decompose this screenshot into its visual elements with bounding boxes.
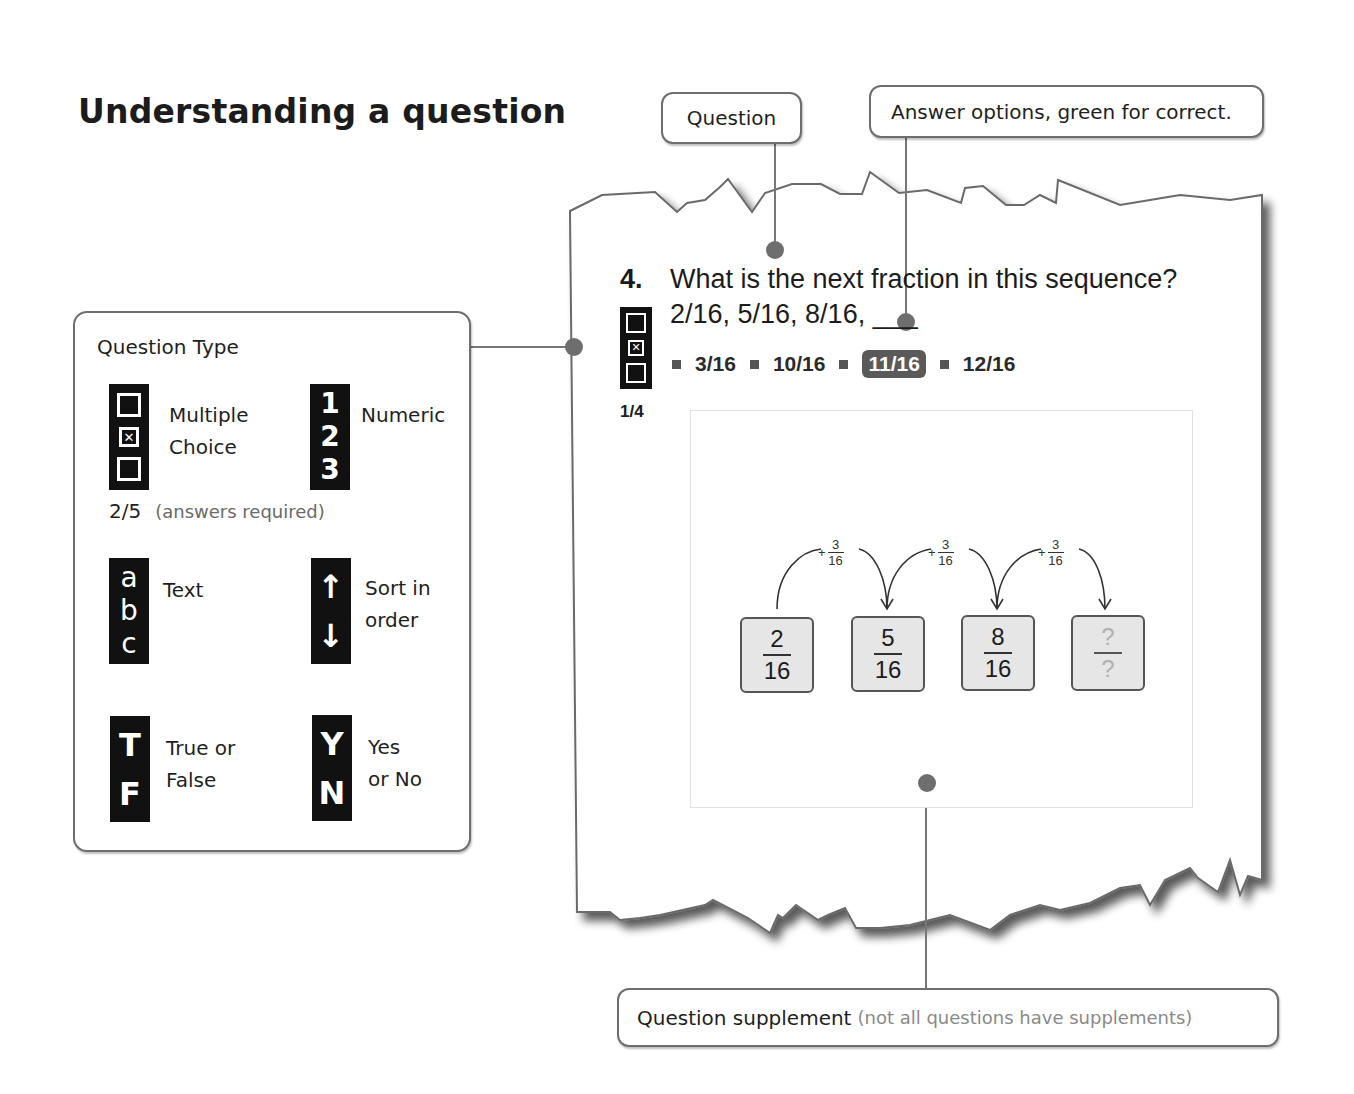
question-type-heading: Question Type (97, 335, 239, 359)
answer-options: 3/16 10/16 11/16 12/16 (672, 350, 1029, 378)
qtype-label-numeric: Numeric (361, 399, 445, 431)
step-label: + 316 (1038, 538, 1064, 567)
checkbox-empty-icon (626, 363, 646, 383)
mc-count-note: (answers required) (155, 501, 325, 522)
fraction-card: 216 (740, 617, 814, 693)
supplement-callout: Question supplement (not all questions h… (617, 988, 1279, 1047)
fraction-card: 816 (961, 615, 1035, 691)
answer-option[interactable]: 10/16 (750, 352, 826, 376)
yes-no-icon: Y N (312, 715, 352, 821)
question-supplement-panel: + 316 + 316 + 316 216 516 816 ?? (690, 410, 1193, 808)
checkbox-empty-icon (117, 393, 141, 417)
fraction-card-unknown: ?? (1071, 615, 1145, 691)
answer-option-correct[interactable]: 11/16 (839, 350, 925, 378)
fraction-card: 516 (851, 616, 925, 692)
question-type-legend: Question Type ✕ Multiple Choice 2/5(answ… (73, 311, 471, 852)
bullet-icon (940, 360, 949, 369)
supplement-callout-label: Question supplement (637, 1006, 851, 1030)
question-type-multiple-choice-icon: ✕ (620, 307, 652, 389)
mc-answers-required: 2/5(answers required) (109, 499, 325, 523)
question-text-line2: 2/16, 5/16, 8/16, ___ (670, 297, 1177, 332)
qtype-label-true-false: True or False (166, 732, 235, 796)
answer-option[interactable]: 3/16 (672, 352, 736, 376)
question-text-line1: What is the next fraction in this sequen… (670, 262, 1177, 297)
answer-option[interactable]: 12/16 (940, 352, 1016, 376)
step-label: + 316 (928, 538, 954, 567)
checkbox-empty-icon (626, 313, 646, 333)
bullet-icon (672, 360, 681, 369)
true-false-icon: T F (110, 716, 150, 822)
bullet-icon (839, 360, 848, 369)
answer-options-callout: Answer options, green for correct. (869, 85, 1264, 138)
step-label: + 316 (818, 538, 844, 567)
question-number: 4. (620, 264, 643, 295)
question-text: What is the next fraction in this sequen… (670, 262, 1177, 332)
checkbox-stack-icon: ✕ (109, 384, 149, 490)
connector-dot-question (766, 241, 784, 259)
numeric-123-icon: 1 2 3 (310, 384, 350, 490)
question-callout: Question (661, 92, 802, 144)
mc-count-value: 2/5 (109, 499, 141, 523)
checkbox-empty-icon (117, 457, 141, 481)
connector-dot-question-type (565, 338, 583, 356)
qtype-label-yes-no: Yes or No (368, 731, 422, 795)
question-callout-label: Question (687, 106, 776, 130)
checkbox-checked-icon: ✕ (119, 427, 139, 447)
bullet-icon (750, 360, 759, 369)
qtype-label-text: Text (163, 574, 203, 606)
sort-arrows-icon: ↑ ↓ (311, 558, 351, 664)
text-abc-icon: a b c (109, 558, 149, 664)
answer-options-callout-label: Answer options, green for correct. (891, 100, 1232, 124)
supplement-callout-note: (not all questions have supplements) (857, 1007, 1192, 1028)
qtype-label-sort: Sort in order (365, 572, 431, 636)
step-arrows-illustration (691, 411, 1194, 809)
qtype-label-multiple-choice: Multiple Choice (169, 399, 248, 463)
connector-dot-supplement (918, 774, 936, 792)
answers-required-count: 1/4 (620, 402, 644, 422)
checkbox-checked-icon: ✕ (628, 340, 644, 356)
